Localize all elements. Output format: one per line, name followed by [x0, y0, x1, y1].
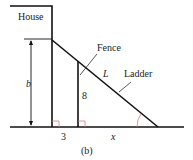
fence-distance-label: 3	[61, 131, 66, 142]
ladder-label: Ladder	[124, 68, 153, 79]
arrow-down-icon	[29, 121, 33, 126]
fence-label: Fence	[97, 42, 121, 53]
ladder-leader-line	[119, 82, 131, 92]
length-label: L	[102, 68, 109, 79]
fence-height-label: 8	[82, 90, 87, 101]
arrow-up-icon	[29, 40, 33, 45]
height-label: b	[26, 78, 31, 89]
right-angle-mark-house	[52, 121, 59, 127]
ground-distance-label: x	[110, 131, 116, 142]
house-label: House	[18, 11, 44, 22]
figure-caption: (b)	[81, 145, 93, 157]
right-angle-mark-fence	[78, 121, 85, 127]
ladder-fence-diagram: House Fence Ladder L b 8 3 x (b)	[0, 0, 193, 160]
ladder-line	[52, 40, 158, 127]
angle-arc	[137, 114, 141, 127]
